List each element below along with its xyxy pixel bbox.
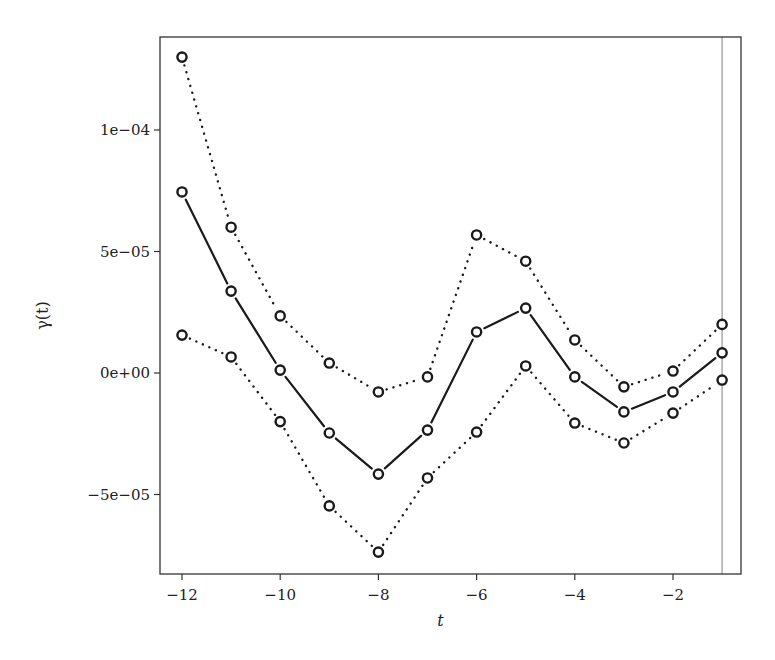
y-tick-label: 1e−04 [100, 121, 150, 139]
data-point-marker [276, 417, 285, 426]
series-segment [236, 298, 276, 362]
series-segment [482, 373, 521, 425]
data-point-marker [276, 311, 285, 320]
series-segment [285, 377, 324, 426]
series-segment [383, 485, 423, 545]
y-tick-label: −5e−05 [87, 486, 150, 504]
x-axis-label: t [437, 611, 444, 630]
series-segment [336, 512, 373, 546]
series-segment [235, 235, 276, 309]
series-segment [531, 372, 569, 416]
data-point-marker [423, 426, 432, 435]
series-estimate [177, 187, 726, 478]
x-tick-label: −2 [662, 586, 684, 604]
series-segment [484, 312, 518, 328]
data-point-marker [619, 438, 628, 447]
data-point-marker [374, 469, 383, 478]
series-segment [680, 358, 716, 386]
data-point-marker [423, 473, 432, 482]
series-layer [177, 53, 726, 557]
plot-frame [160, 37, 741, 574]
data-point-marker [325, 501, 334, 510]
data-point-marker [227, 287, 236, 296]
data-point-marker [227, 352, 236, 361]
series-segment [680, 385, 715, 408]
y-axis-label: γ(t) [33, 301, 52, 329]
series-segment [190, 339, 223, 354]
series-segment [184, 65, 228, 219]
series-segment [236, 364, 275, 415]
series-segment [431, 340, 472, 423]
series-segment [285, 429, 325, 498]
series-segment [484, 239, 518, 257]
data-point-marker [570, 335, 579, 344]
x-tick-label: −4 [564, 586, 586, 604]
series-upper-bound [177, 53, 726, 397]
data-point-marker [472, 327, 481, 336]
data-point-marker [374, 547, 383, 556]
series-segment [286, 322, 323, 357]
data-point-marker [619, 382, 628, 391]
x-axis: −12−10−8−6−4−2 [166, 574, 684, 604]
series-segment [336, 439, 372, 469]
series-segment [632, 374, 665, 385]
series-segment [337, 367, 371, 387]
series-segment [186, 200, 227, 284]
data-point-marker [718, 320, 727, 329]
data-point-marker [374, 387, 383, 396]
series-segment [581, 346, 618, 381]
data-point-marker [619, 407, 628, 416]
data-point-marker [718, 348, 727, 357]
data-point-marker [668, 408, 677, 417]
data-point-marker [472, 427, 481, 436]
data-point-marker [521, 257, 530, 266]
data-point-marker [177, 53, 186, 62]
series-segment [385, 436, 421, 469]
x-tick-label: −10 [264, 586, 296, 604]
data-point-marker [423, 372, 432, 381]
data-point-marker [668, 387, 677, 396]
data-point-marker [570, 418, 579, 427]
data-point-marker [325, 358, 334, 367]
y-axis: 1e−045e−050e+00−5e−05 [87, 121, 160, 504]
chart: −12−10−8−6−4−2 1e−045e−050e+00−5e−05 t γ… [0, 0, 775, 660]
x-tick-label: −8 [367, 586, 389, 604]
data-point-marker [227, 223, 236, 232]
data-point-marker [472, 230, 481, 239]
data-point-marker [521, 361, 530, 370]
data-point-marker [276, 365, 285, 374]
data-point-marker [668, 366, 677, 375]
y-tick-label: 5e−05 [100, 243, 150, 261]
data-point-marker [521, 304, 530, 313]
y-tick-label: 0e+00 [100, 364, 150, 382]
data-point-marker [570, 372, 579, 381]
x-tick-label: −6 [466, 586, 488, 604]
series-segment [632, 395, 665, 408]
series-segment [434, 438, 471, 472]
series-segment [583, 426, 616, 439]
series-segment [679, 330, 716, 365]
series-lower-bound [177, 330, 726, 556]
x-tick-label: −12 [166, 586, 198, 604]
data-point-marker [177, 330, 186, 339]
series-segment [582, 382, 617, 407]
series-segment [387, 379, 420, 389]
series-segment [631, 418, 665, 439]
data-point-marker [325, 428, 334, 437]
data-point-marker [718, 375, 727, 384]
data-point-marker [177, 187, 186, 196]
